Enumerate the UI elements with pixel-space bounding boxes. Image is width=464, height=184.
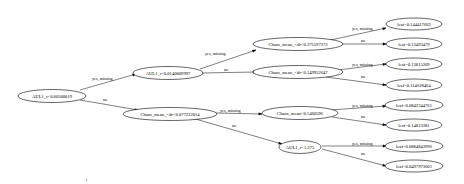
svg-text:leaf=0.114628464: leaf=0.114628464 <box>397 83 431 88</box>
svg-text:leaf=0.144417662: leaf=0.144417662 <box>397 22 431 27</box>
node-n5: Chaos_mean<0.1460596 <box>262 107 338 120</box>
svg-text:Chaos_mean_<dr<0.149952647: Chaos_mean_<dr<0.149952647 <box>268 70 328 75</box>
leaf-node-2: leaf=0.13815209 <box>386 58 442 70</box>
svg-text:Chaos_mean_<dr<0.375597273: Chaos_mean_<dr<0.375597273 <box>268 42 328 47</box>
svg-text:leaf=0.13493479: leaf=0.13493479 <box>398 42 430 47</box>
svg-text:AUL1_r<0.0140009997: AUL1_r<0.0140009997 <box>146 71 191 76</box>
node-n6: AUL1_r<1.375 <box>279 141 321 154</box>
edge-n4-l2-yes: yes, missing <box>338 62 386 70</box>
leaf-node-7: leaf=0.0497973601 <box>385 160 443 172</box>
svg-text:no: no <box>361 74 365 79</box>
svg-text:leaf=0.0497973601: leaf=0.0497973601 <box>396 164 433 169</box>
leaf-node-1: leaf=0.13493479 <box>386 38 442 50</box>
leaf-node-5: leaf=0.14823381 <box>386 119 442 131</box>
edge-n3-l0-yes: yes, missing <box>326 26 386 41</box>
node-n4: Chaos_mean_<dr<0.149952647 <box>253 66 343 79</box>
svg-text:AUL1_r<1.375: AUL1_r<1.375 <box>286 145 315 150</box>
node-n3: Chaos_mean_<dr<0.375597273 <box>253 38 343 51</box>
edge-n6-l7-no: no <box>322 149 386 166</box>
edge-n0-n2-no: no <box>80 97 138 111</box>
node-n1: AUL1_r<0.0140009997 <box>133 67 203 80</box>
svg-text:yes, missing: yes, missing <box>205 51 227 57</box>
svg-text:leaf=0.13815209: leaf=0.13815209 <box>398 62 430 67</box>
node-n2: Chaos_mean_<dr<0.077232014 <box>123 108 217 121</box>
edge-n0-n1-yes: yes, missing <box>80 74 136 90</box>
edge-n2-n6-no: no <box>192 118 282 144</box>
edge-n5-l5-no: no <box>332 114 386 126</box>
svg-text:no: no <box>224 67 228 72</box>
footnote-mark: i <box>86 177 88 182</box>
svg-text:no: no <box>361 38 365 43</box>
edge-n2-n5-yes: yes, missing <box>216 108 262 115</box>
svg-text:no: no <box>103 97 107 102</box>
svg-text:leaf=0.0842344761: leaf=0.0842344761 <box>396 103 433 108</box>
edge-n5-l4-yes: yes, missing <box>330 103 386 110</box>
edge-n6-l6-yes: yes, missing <box>322 141 386 147</box>
svg-text:no: no <box>361 114 365 119</box>
edge-n1-n4-no: no <box>201 67 256 73</box>
svg-text:leaf=0.14823381: leaf=0.14823381 <box>398 123 430 128</box>
svg-text:no: no <box>361 151 365 156</box>
svg-text:Chaos_mean<0.1460596: Chaos_mean<0.1460596 <box>277 111 324 116</box>
leaf-node-0: leaf=0.144417662 <box>386 18 442 30</box>
decision-tree-diagram: yes, missing no yes, missing no yes, mis… <box>0 0 464 184</box>
svg-text:leaf=0.0884843996: leaf=0.0884843996 <box>396 144 433 149</box>
node-root: AUL1_r<0.00500019 <box>18 90 86 103</box>
svg-text:AUL1_r<0.00500019: AUL1_r<0.00500019 <box>32 94 73 99</box>
svg-text:no: no <box>232 123 236 128</box>
svg-text:Chaos_mean_<dr<0.077232014: Chaos_mean_<dr<0.077232014 <box>140 112 200 117</box>
leaf-node-6: leaf=0.0884843996 <box>385 140 443 152</box>
leaf-node-4: leaf=0.0842344761 <box>385 99 443 111</box>
leaf-node-3: leaf=0.114628464 <box>386 79 442 91</box>
svg-text:yes, missing: yes, missing <box>352 26 374 32</box>
